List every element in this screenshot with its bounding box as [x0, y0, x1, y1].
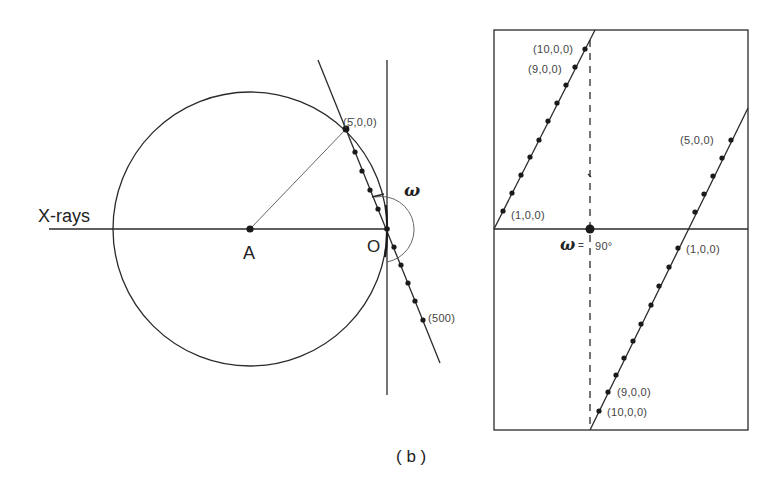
omega-symbol-right: ω: [560, 235, 575, 254]
figure-caption: ( b ): [396, 447, 426, 466]
reflection-point: [613, 372, 618, 377]
lattice-point: [412, 298, 417, 303]
circle-contact-segment: [385, 232, 387, 257]
reciprocal-lattice-row: [318, 60, 440, 363]
reflection-point: [527, 154, 532, 159]
ewald-construction: X-rays A O ω (5̄,0,0) (500): [38, 60, 455, 395]
label-9-0-0-bottom: (9,0,0): [617, 386, 651, 398]
omega-value-90: 90°: [595, 240, 613, 252]
reflection-point: [509, 190, 514, 195]
reflection-point: [630, 338, 635, 343]
reflection-point: [605, 389, 610, 394]
lattice-point: [375, 206, 380, 211]
lattice-point: [352, 149, 357, 154]
rotation-plot: (10,0,0) (9,0,0) (1,0,0) (5,0,0) (1,0,0)…: [494, 30, 748, 430]
plot-frame: [494, 30, 748, 430]
reflection-point: [728, 137, 733, 142]
label-1-0-0-right: (1,0,0): [686, 243, 720, 255]
point-label-500: (500): [428, 312, 455, 324]
label-10-0-0-top: (10,0,0): [533, 43, 573, 55]
lattice-point: [367, 187, 372, 192]
label-10-0-0-bottom: (10,0,0): [607, 406, 647, 418]
reflection-point: [666, 264, 671, 269]
origin-point-o: [384, 226, 390, 232]
omega-label: ω: [404, 180, 420, 200]
reflection-point: [719, 155, 724, 160]
lattice-point: [398, 262, 403, 267]
xray-label: X-rays: [38, 206, 90, 226]
reflection-point: [572, 64, 577, 69]
lattice-point: [391, 244, 396, 249]
reflection-point: [554, 100, 559, 105]
reflection-point: [545, 118, 550, 123]
reflection-point: [648, 302, 653, 307]
label-5-0-0-right: (5,0,0): [680, 134, 714, 146]
label-9-0-0-top: (9,0,0): [528, 63, 562, 75]
center-label-a: A: [243, 243, 255, 263]
center-point-a: [246, 225, 253, 232]
reflection-point: [596, 408, 601, 413]
point-label-5-0-0-bar: (5̄,0,0): [343, 116, 377, 128]
reflection-point: [675, 245, 680, 250]
origin-label-o: O: [367, 237, 380, 256]
label-1-0-0-left: (1,0,0): [511, 209, 545, 221]
reflection-point: [536, 137, 541, 142]
lattice-point: [359, 168, 364, 173]
radius-line: [250, 129, 346, 229]
lattice-point: [420, 317, 425, 322]
reflection-point: [621, 355, 626, 360]
reflection-point: [582, 46, 587, 51]
upper-left-reflection-line: [494, 30, 595, 229]
lattice-point: [405, 280, 410, 285]
circle-contact-segment-upper: [386, 205, 387, 226]
reflection-point: [701, 191, 706, 196]
reflection-point: [500, 208, 505, 213]
reflection-point: [563, 82, 568, 87]
omega-90-point: [586, 225, 595, 234]
reflection-point: [710, 173, 715, 178]
omega-equals: =: [578, 240, 584, 251]
reflection-point: [638, 321, 643, 326]
reflection-point: [692, 209, 697, 214]
reflection-point: [656, 283, 661, 288]
reflection-point: [518, 172, 523, 177]
diffraction-diagram: X-rays A O ω (5̄,0,0) (500): [0, 0, 783, 484]
